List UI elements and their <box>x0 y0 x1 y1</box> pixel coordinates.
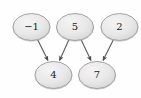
nodes-layer: −15247 <box>13 14 138 90</box>
graph-node[interactable]: 5 <box>57 14 94 42</box>
graph-node[interactable]: 2 <box>101 14 138 42</box>
graph-edge[interactable] <box>38 40 49 61</box>
node-label: 2 <box>116 21 122 32</box>
graph-canvas: −15247 <box>0 0 141 98</box>
graph-svg: −15247 <box>0 0 141 98</box>
graph-edge[interactable] <box>103 40 114 61</box>
graph-edge[interactable] <box>81 40 91 61</box>
graph-node[interactable]: 4 <box>35 62 72 90</box>
graph-node[interactable]: 7 <box>79 62 116 90</box>
node-label: 5 <box>72 21 78 32</box>
node-label: −1 <box>24 21 39 32</box>
edges-layer <box>38 40 114 61</box>
graph-edge[interactable] <box>60 40 70 61</box>
node-label: 4 <box>50 69 56 80</box>
node-label: 7 <box>94 69 100 80</box>
graph-node[interactable]: −1 <box>13 14 50 42</box>
